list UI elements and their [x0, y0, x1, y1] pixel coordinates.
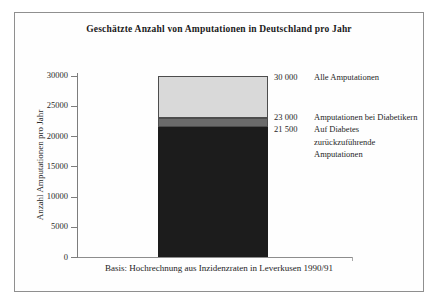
annotation-label: Auf Diabetes zurückzuführende Amputation…: [314, 123, 422, 161]
y-tick-mark-25000: [71, 106, 78, 107]
annotation-label: Amputationen bei Diabetikern: [314, 111, 417, 124]
y-tick-label-5000: 5000: [28, 221, 68, 232]
y-tick-mark-10000: [71, 197, 78, 198]
annotation-value: 23 000: [274, 111, 314, 124]
x-axis-line: [77, 257, 353, 258]
annotation-value: 21 500: [274, 123, 314, 136]
y-tick-label-0: 0: [28, 252, 68, 263]
bar-segment-all-amputations: [158, 76, 268, 118]
x-axis-end-tick: [352, 257, 353, 261]
y-tick-label-15000: 15000: [28, 161, 68, 172]
y-tick-mark-20000: [71, 136, 78, 137]
y-tick-label-10000: 10000: [28, 191, 68, 202]
y-tick-mark-0: [71, 257, 78, 258]
annotation-value: 30 000: [274, 71, 314, 84]
annotation-diabetic-patients: 23 000Amputationen bei Diabetikern: [274, 111, 424, 124]
y-tick-label-20000: 20000: [28, 131, 68, 142]
annotation-all-amputations: 30 000Alle Amputationen: [274, 71, 424, 84]
annotation-label: Alle Amputationen: [314, 71, 379, 84]
annotation-diabetes-attributable: 21 500Auf Diabetes zurückzuführende Ampu…: [274, 123, 424, 161]
y-axis-line: [77, 73, 78, 257]
y-tick-label-30000: 30000: [28, 70, 68, 81]
bar-segment-diabetic-patients: [158, 118, 268, 127]
y-tick-label-25000: 25000: [28, 100, 68, 111]
scanned-chart-figure: Geschätzte Anzahl von Amputationen in De…: [0, 0, 436, 303]
y-tick-mark-30000: [71, 76, 78, 77]
y-tick-mark-15000: [71, 166, 78, 167]
y-tick-mark-5000: [71, 227, 78, 228]
chart-caption: Basis: Hochrechnung aus Inzidenzraten in…: [14, 263, 424, 273]
chart-title: Geschätzte Anzahl von Amputationen in De…: [14, 24, 424, 34]
bar-segment-diabetes-attributable: [158, 127, 268, 257]
